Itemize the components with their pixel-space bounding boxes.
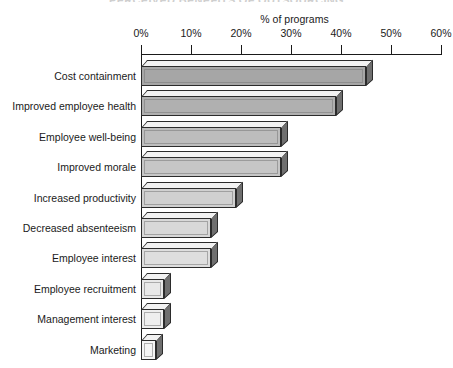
bar-front-face	[141, 218, 211, 238]
bar-chart: PERCEIVED BENEFITS OF OUTSOURCING % of p…	[0, 0, 453, 368]
bar-front-face	[141, 188, 236, 208]
bar-front-face	[141, 309, 164, 329]
x-tick-mark	[291, 45, 292, 54]
bar	[141, 151, 288, 178]
x-tick-label-20: 20%	[230, 27, 251, 39]
x-tick-label-60: 60%	[430, 27, 451, 39]
bar-front-face	[141, 96, 336, 116]
x-axis-label-text: % of programs	[260, 13, 328, 25]
bar-front-face	[141, 157, 281, 177]
category-label-3: Improved morale	[57, 161, 136, 173]
category-labels: Cost containmentImproved employee health…	[0, 0, 136, 368]
category-label-0: Cost containment	[54, 70, 136, 82]
category-label-6: Employee interest	[52, 252, 136, 264]
x-tick-mark	[441, 45, 442, 54]
x-tick-label-50: 50%	[380, 27, 401, 39]
category-label-1: Improved employee health	[12, 100, 136, 112]
x-tick-mark	[141, 45, 142, 54]
bar-front-face	[141, 66, 366, 86]
category-label-9: Marketing	[90, 344, 136, 356]
bar	[141, 60, 373, 87]
bar-front-face	[141, 248, 211, 268]
bar-front-face	[141, 340, 156, 360]
bar	[141, 273, 171, 300]
category-label-4: Increased productivity	[34, 192, 136, 204]
bar	[141, 242, 218, 269]
category-label-2: Employee well-being	[39, 131, 136, 143]
bar	[141, 182, 243, 209]
bar-front-face	[141, 279, 164, 299]
category-label-5: Decreased absenteeism	[23, 222, 136, 234]
bar	[141, 303, 171, 330]
bar	[141, 90, 343, 117]
bar-front-face	[141, 127, 281, 147]
bar	[141, 212, 218, 239]
category-label-8: Management interest	[37, 313, 136, 325]
x-tick-label-10: 10%	[180, 27, 201, 39]
bar	[141, 121, 288, 148]
x-tick-mark	[391, 45, 392, 54]
x-tick-mark	[241, 45, 242, 54]
x-tick-mark	[191, 45, 192, 54]
x-tick-label-40: 40%	[330, 27, 351, 39]
x-axis-line	[141, 54, 442, 55]
x-tick-mark	[341, 45, 342, 54]
category-label-7: Employee recruitment	[34, 283, 136, 295]
x-tick-label-30: 30%	[280, 27, 301, 39]
bar	[141, 334, 163, 361]
